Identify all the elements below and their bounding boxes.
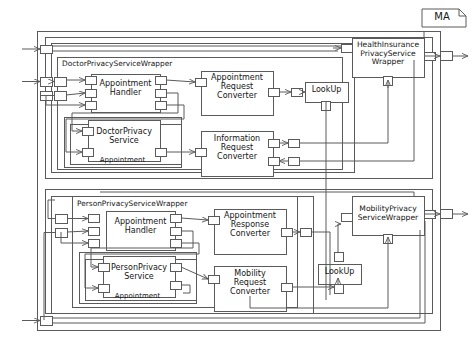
diagram-vector-layer [0, 0, 474, 350]
note-shape [422, 9, 466, 27]
diagram-canvas: MA DoctorPrivacyServiceWrapper Appointme… [0, 0, 474, 350]
